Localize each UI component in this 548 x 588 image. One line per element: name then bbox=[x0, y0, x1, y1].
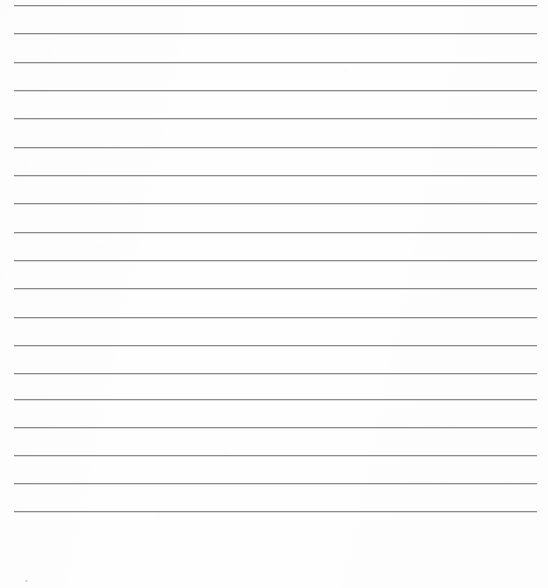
rule-line bbox=[14, 483, 537, 484]
rule-line bbox=[14, 511, 537, 512]
rule-line bbox=[14, 203, 537, 204]
rule-line bbox=[14, 118, 537, 119]
rule-line bbox=[14, 345, 537, 346]
rule-line bbox=[14, 90, 537, 91]
paper-texture-overlay bbox=[0, 0, 548, 588]
rule-line bbox=[14, 260, 537, 261]
rule-line bbox=[14, 5, 537, 6]
rule-line bbox=[14, 399, 537, 400]
rule-line bbox=[14, 373, 537, 374]
scanned-page bbox=[0, 0, 548, 588]
rule-line bbox=[14, 33, 537, 34]
scan-speck-artifact bbox=[25, 580, 28, 582]
rule-line bbox=[14, 62, 537, 63]
rule-line bbox=[14, 288, 537, 289]
rule-line bbox=[14, 232, 537, 233]
rule-line bbox=[14, 175, 537, 176]
rule-line bbox=[14, 455, 537, 456]
rule-line bbox=[14, 317, 537, 318]
rule-line bbox=[14, 427, 537, 428]
rule-line bbox=[14, 147, 537, 148]
